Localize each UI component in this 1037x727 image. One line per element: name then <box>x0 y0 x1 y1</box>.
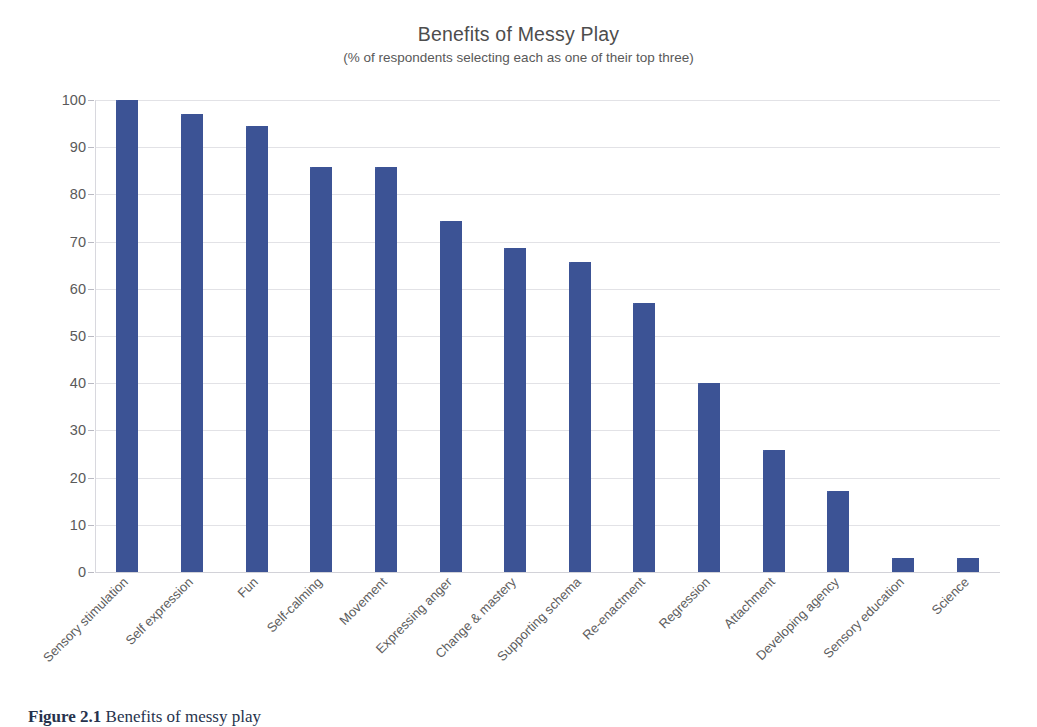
figure-caption-text: Benefits of messy play <box>106 707 261 726</box>
bar <box>957 558 979 572</box>
x-axis-label-wrapper: Regression <box>657 575 713 631</box>
figure-caption-number: Figure 2.1 <box>28 707 101 726</box>
y-axis-tick <box>88 430 94 431</box>
bar <box>763 450 785 572</box>
gridline <box>95 572 1000 573</box>
figure-caption: Figure 2.1 Benefits of messy play <box>28 707 261 727</box>
y-axis-tick-label: 0 <box>46 565 86 580</box>
bar <box>633 303 655 573</box>
bar <box>310 167 332 572</box>
bar <box>375 167 397 572</box>
y-axis-tick <box>88 100 94 101</box>
y-axis-tick-label: 20 <box>46 470 86 485</box>
x-axis-tick-label: Movement <box>337 575 389 627</box>
x-axis-label-wrapper: Science <box>929 575 971 617</box>
y-axis-tick <box>88 478 94 479</box>
y-axis-tick-label: 40 <box>46 376 86 391</box>
y-axis-tick <box>88 242 94 243</box>
x-axis-tick-label: Science <box>929 575 971 617</box>
y-axis-tick-label: 90 <box>46 140 86 155</box>
x-axis-label-wrapper: Self expression <box>123 575 195 647</box>
y-axis-tick <box>88 383 94 384</box>
y-axis-tick <box>88 336 94 337</box>
x-axis-label-wrapper: Re-enactment <box>581 575 648 642</box>
bar <box>892 558 914 572</box>
x-axis-tick-label: Regression <box>657 575 713 631</box>
y-axis-tick-label: 50 <box>46 329 86 344</box>
x-axis-labels: Sensory stimulationSelf expressionFunSel… <box>95 575 1000 705</box>
x-axis-label-wrapper: Sensory stimulation <box>41 575 130 664</box>
bar <box>504 248 526 572</box>
bar <box>181 114 203 572</box>
bar <box>246 126 268 572</box>
x-axis-tick-label: Fun <box>235 575 260 600</box>
y-axis-tick <box>88 525 94 526</box>
y-axis-tick-label: 100 <box>46 93 86 108</box>
x-axis-tick-label: Self-calming <box>265 575 325 635</box>
bar <box>569 262 591 572</box>
y-axis-tick <box>88 147 94 148</box>
y-axis-tick-label: 80 <box>46 187 86 202</box>
y-axis-tick <box>88 289 94 290</box>
y-axis-tick <box>88 194 94 195</box>
bar <box>698 383 720 572</box>
y-axis-tick-label: 70 <box>46 234 86 249</box>
x-axis-label-wrapper: Attachment <box>721 575 777 631</box>
y-axis-tick <box>88 572 94 573</box>
y-axis-tick-label: 10 <box>46 518 86 533</box>
bar <box>116 100 138 572</box>
x-axis-tick-label: Sensory stimulation <box>41 575 130 664</box>
bar-series <box>95 100 1000 572</box>
x-axis-tick-label: Self expression <box>123 575 195 647</box>
y-axis-labels: 1009080706050403020100 <box>42 100 86 572</box>
x-axis-tick-label: Attachment <box>721 575 777 631</box>
x-axis-label-wrapper: Fun <box>235 575 260 600</box>
y-axis-tick-label: 30 <box>46 423 86 438</box>
bar <box>440 221 462 572</box>
x-axis-tick-label: Re-enactment <box>581 575 648 642</box>
x-axis-label-wrapper: Self-calming <box>265 575 325 635</box>
y-axis-tick-label: 60 <box>46 282 86 297</box>
x-axis-label-wrapper: Movement <box>337 575 389 627</box>
bar <box>827 491 849 572</box>
